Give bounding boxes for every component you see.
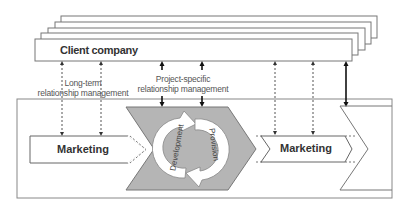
project-specific-label: Project-specific relationship management	[133, 74, 233, 94]
client-company-label: Client company	[60, 44, 138, 56]
marketing-right-label: Marketing	[280, 142, 332, 154]
diagram-canvas	[0, 0, 406, 206]
long-term-label: Long-term relationship management	[33, 78, 133, 98]
marketing-left-label: Marketing	[57, 143, 109, 155]
